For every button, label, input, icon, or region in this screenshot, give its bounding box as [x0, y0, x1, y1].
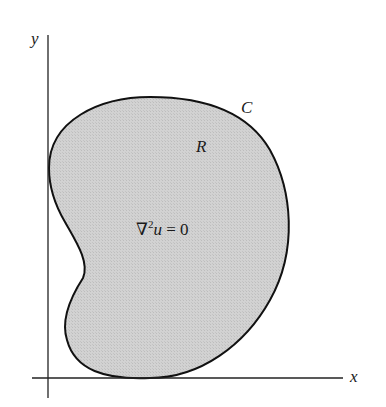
diagram-canvas	[0, 0, 386, 407]
x-axis-label: x	[350, 368, 358, 385]
laplace-equation: ∇2u = 0	[136, 221, 188, 238]
equation-rhs: = 0	[162, 220, 189, 239]
nabla-operator: ∇	[136, 220, 148, 239]
y-axis-label: y	[31, 30, 39, 47]
region-label: R	[196, 138, 206, 155]
equation-variable: u	[153, 220, 162, 239]
laplace-region-diagram: y x C R ∇2u = 0	[0, 0, 386, 407]
boundary-curve-label: C	[241, 99, 252, 116]
